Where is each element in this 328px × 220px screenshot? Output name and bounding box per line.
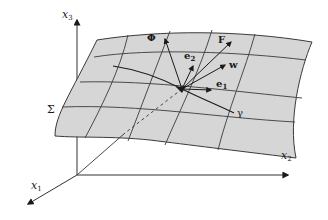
- axis-x1-label: x1: [31, 180, 42, 193]
- surface-sigma-label: Σ: [47, 104, 55, 115]
- axis-x2-label: x2: [281, 150, 292, 163]
- vector-w-label: w: [229, 60, 238, 70]
- diagram-canvas: x3 x2 x1 Σ Φ F e2 w e1 γ: [0, 0, 328, 220]
- position-line: [77, 133, 125, 175]
- vector-e2-label: e2: [184, 51, 195, 62]
- axis-x3-label: x3: [62, 9, 73, 22]
- vector-phi-label: Φ: [147, 33, 156, 43]
- curve-gamma-label: γ: [237, 108, 243, 118]
- vector-e1-label: e1: [216, 79, 227, 90]
- vector-F-label: F: [218, 35, 225, 45]
